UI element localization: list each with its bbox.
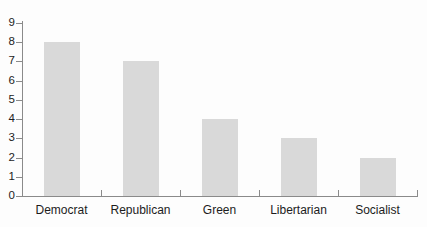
y-axis-tick: [16, 23, 22, 24]
y-axis-tick-label-wrap: 9: [0, 17, 15, 29]
y-axis-tick-label-wrap: 6: [0, 75, 15, 87]
y-axis-tick-label: 0: [2, 190, 15, 202]
x-axis-tick: [22, 190, 23, 197]
x-axis-category-label: Socialist: [338, 203, 417, 217]
y-axis-tick: [16, 81, 22, 82]
y-axis-line: [22, 21, 23, 197]
y-axis-tick-label-wrap: 3: [0, 132, 15, 144]
y-axis-tick-label: 3: [2, 132, 15, 144]
x-axis-tick: [180, 190, 181, 197]
y-axis-tick: [16, 177, 22, 178]
bar: [123, 61, 159, 196]
y-axis-tick-label: 2: [2, 152, 15, 164]
x-axis-category-label: Green: [180, 203, 259, 217]
y-axis-tick-label: 8: [2, 36, 15, 48]
y-axis-tick-label-wrap: 7: [0, 55, 15, 67]
x-axis-category-label: Libertarian: [259, 203, 338, 217]
y-axis-tick-label-wrap: 2: [0, 152, 15, 164]
x-axis-line: [22, 196, 417, 197]
y-axis-tick-label: 9: [2, 17, 15, 29]
x-axis-tick: [417, 190, 418, 197]
y-axis-tick-label-wrap: 8: [0, 36, 15, 48]
x-axis-tick: [259, 190, 260, 197]
y-axis-tick: [16, 61, 22, 62]
y-axis-tick-label-wrap: 0: [0, 190, 15, 202]
bar: [281, 138, 317, 196]
x-axis-category-label: Democrat: [22, 203, 101, 217]
x-axis-category-label: Republican: [101, 203, 180, 217]
y-axis-tick: [16, 119, 22, 120]
x-axis-tick: [101, 190, 102, 197]
y-axis-tick-label: 5: [2, 94, 15, 106]
scan-artifact-band: [0, 0, 427, 12]
bar-chart: 0123456789 DemocratRepublicanGreenLibert…: [0, 0, 427, 227]
bar: [360, 158, 396, 196]
y-axis-tick-label: 7: [2, 55, 15, 67]
y-axis-tick-label-wrap: 1: [0, 171, 15, 183]
y-axis-tick: [16, 42, 22, 43]
y-axis-tick: [16, 138, 22, 139]
y-axis-tick: [16, 158, 22, 159]
y-axis-tick-label: 1: [2, 171, 15, 183]
y-axis-tick-label-wrap: 4: [0, 113, 15, 125]
y-axis-tick-label: 4: [2, 113, 15, 125]
y-axis-tick-label-wrap: 5: [0, 94, 15, 106]
y-axis-tick-label: 6: [2, 75, 15, 87]
x-axis-tick: [338, 190, 339, 197]
y-axis-tick: [16, 100, 22, 101]
bar: [202, 119, 238, 196]
bar: [44, 42, 80, 196]
